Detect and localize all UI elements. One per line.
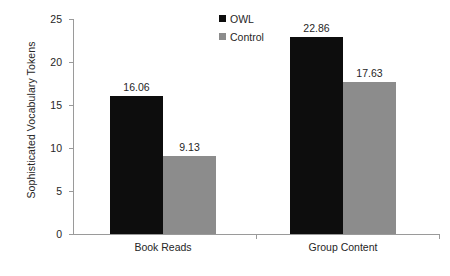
owl-swatch-icon xyxy=(219,15,226,22)
y-tick-label-25: 25 xyxy=(50,13,62,25)
bar-group-content-owl[interactable]: 22.86 xyxy=(290,37,343,234)
y-tick-5: 5 xyxy=(69,191,73,192)
plot-area: 25 20 15 10 5 0 16.06 9.13 22.86 xyxy=(73,19,440,234)
legend-item-control[interactable]: Control xyxy=(219,29,264,44)
bar-book-reads-control[interactable]: 9.13 xyxy=(163,156,216,235)
y-tick-10: 10 xyxy=(69,148,73,149)
control-swatch-icon xyxy=(219,33,226,40)
bar-book-reads-owl[interactable]: 16.06 xyxy=(110,96,163,234)
y-tick-label-20: 20 xyxy=(50,56,62,68)
bar-value-group-content-control: 17.63 xyxy=(356,67,382,79)
x-category-label-book-reads: Book Reads xyxy=(134,241,191,253)
y-tick-0: 0 xyxy=(69,234,73,235)
y-tick-20: 20 xyxy=(69,62,73,63)
y-tick-label-15: 15 xyxy=(50,99,62,111)
bar-value-book-reads-owl: 16.06 xyxy=(123,81,149,93)
y-tick-label-0: 0 xyxy=(56,228,62,240)
y-axis-title: Sophisticated Vocabulary Tokens xyxy=(25,0,37,245)
y-tick-label-10: 10 xyxy=(50,142,62,154)
y-tick-25: 25 xyxy=(69,19,73,20)
legend-item-owl[interactable]: OWL xyxy=(219,11,264,26)
chart-legend: OWL Control xyxy=(219,11,264,47)
x-category-label-group-content: Group Content xyxy=(309,241,378,253)
legend-label-owl: OWL xyxy=(230,13,254,25)
legend-label-control: Control xyxy=(230,31,264,43)
y-axis-line xyxy=(73,19,74,235)
bar-group-content-control[interactable]: 17.63 xyxy=(343,82,396,234)
bar-chart-figure: Sophisticated Vocabulary Tokens 25 20 15… xyxy=(0,0,450,276)
y-tick-15: 15 xyxy=(69,105,73,106)
bar-value-book-reads-control: 9.13 xyxy=(179,141,199,153)
x-axis-end-tick xyxy=(439,234,440,239)
x-category-separator-tick xyxy=(256,234,257,239)
y-tick-label-5: 5 xyxy=(56,185,62,197)
bar-value-group-content-owl: 22.86 xyxy=(303,22,329,34)
